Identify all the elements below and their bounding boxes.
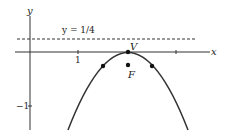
- y-axis-label: y: [26, 5, 33, 16]
- vertex-label: V: [130, 41, 139, 52]
- parabola-diagram: y x 1 −1 y = 1/4 V F: [0, 0, 228, 137]
- latus-point-right: [150, 64, 154, 68]
- x-tick-label-1: 1: [75, 55, 81, 65]
- focus-point: [126, 63, 130, 67]
- x-axis-label: x: [211, 46, 217, 57]
- directrix-label: y = 1/4: [61, 25, 95, 35]
- focus-label: F: [127, 69, 136, 80]
- y-tick-label-neg1: −1: [16, 101, 29, 111]
- latus-point-left: [101, 64, 105, 68]
